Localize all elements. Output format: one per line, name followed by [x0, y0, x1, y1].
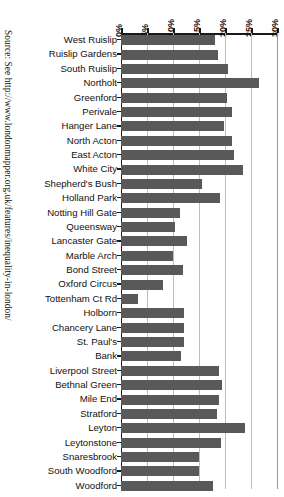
bar — [121, 236, 187, 246]
bar — [121, 93, 227, 103]
bar — [121, 323, 184, 333]
category-label: Leyton — [0, 421, 117, 435]
bar-row — [121, 76, 277, 90]
category-label: Holborn — [0, 306, 117, 320]
bar — [121, 337, 184, 347]
bar — [121, 265, 183, 275]
bar — [121, 466, 199, 476]
bar — [121, 395, 219, 405]
bar-row — [121, 306, 277, 320]
bar-row — [121, 91, 277, 105]
bar-row — [121, 378, 277, 392]
bar-row — [121, 177, 277, 191]
bar-row — [121, 234, 277, 248]
bar — [121, 50, 218, 60]
bar-row — [121, 162, 277, 176]
category-label: Shepherd's Bush — [0, 177, 117, 191]
category-label: Ruislip Gardens — [0, 47, 117, 61]
category-label: Stratford — [0, 407, 117, 421]
category-label: Hanger Lane — [0, 119, 117, 133]
category-label: Notting Hill Gate — [0, 206, 117, 220]
category-label: Liverpool Street — [0, 364, 117, 378]
bar-row — [121, 105, 277, 119]
category-label: Oxford Circus — [0, 277, 117, 291]
category-label: South Woodford — [0, 464, 117, 478]
bar — [121, 35, 215, 45]
bar-row — [121, 321, 277, 335]
bar-row — [121, 47, 277, 61]
category-label: Holland Park — [0, 191, 117, 205]
bar-row — [121, 349, 277, 363]
bar-row — [121, 220, 277, 234]
bar-row — [121, 421, 277, 435]
bar-row — [121, 277, 277, 291]
bar-row — [121, 479, 277, 493]
bar-row — [121, 148, 277, 162]
bar — [121, 366, 219, 376]
bar-row — [121, 134, 277, 148]
category-label: East Acton — [0, 148, 117, 162]
bar-row — [121, 364, 277, 378]
bar — [121, 78, 259, 88]
bar-row — [121, 33, 277, 47]
plot-area — [121, 33, 277, 493]
category-label: Lancaster Gate — [0, 234, 117, 248]
bar-row — [121, 407, 277, 421]
bar — [121, 423, 245, 433]
category-label: Bank — [0, 349, 117, 363]
category-label: White City — [0, 162, 117, 176]
bar — [121, 121, 224, 131]
bar — [121, 351, 181, 361]
category-label: Queensway — [0, 220, 117, 234]
bar — [121, 222, 175, 232]
category-label: Bond Street — [0, 263, 117, 277]
bar — [121, 308, 184, 318]
bar — [121, 481, 213, 491]
bar — [121, 294, 138, 304]
bar-row — [121, 464, 277, 478]
chart-root: Source: See http://www.londonmapper.org.… — [0, 0, 284, 497]
bar — [121, 452, 199, 462]
bar-row — [121, 392, 277, 406]
bar-row — [121, 249, 277, 263]
bar-row — [121, 263, 277, 277]
category-labels: West RuislipRuislip GardensSouth Ruislip… — [0, 33, 117, 493]
category-label: Northolt — [0, 76, 117, 90]
bar — [121, 136, 232, 146]
category-label: South Ruislip — [0, 62, 117, 76]
bar-row — [121, 335, 277, 349]
bar — [121, 280, 163, 290]
bar — [121, 409, 217, 419]
bar — [121, 208, 180, 218]
bar — [121, 150, 234, 160]
bar — [121, 438, 221, 448]
category-label: West Ruislip — [0, 33, 117, 47]
bar — [121, 107, 232, 117]
bar — [121, 380, 222, 390]
gridline-30pct — [277, 33, 278, 489]
bar-row — [121, 119, 277, 133]
category-label: Snaresbrook — [0, 450, 117, 464]
bar — [121, 193, 220, 203]
category-label: Greenford — [0, 91, 117, 105]
bar-row — [121, 206, 277, 220]
bar — [121, 179, 202, 189]
category-label: North Acton — [0, 134, 117, 148]
category-label: Bethnal Green — [0, 378, 117, 392]
bar — [121, 165, 243, 175]
category-label: St. Paul's — [0, 335, 117, 349]
bar-row — [121, 436, 277, 450]
category-label: Tottenham Ct Rd — [0, 292, 117, 306]
bar-row — [121, 292, 277, 306]
category-label: Woodford — [0, 479, 117, 493]
category-label: Perivale — [0, 105, 117, 119]
bar — [121, 251, 173, 261]
category-label: Marble Arch — [0, 249, 117, 263]
bar-row — [121, 191, 277, 205]
bar — [121, 64, 228, 74]
bar-row — [121, 62, 277, 76]
category-label: Leytonstone — [0, 436, 117, 450]
category-label: Mile End — [0, 392, 117, 406]
bar-row — [121, 450, 277, 464]
category-label: Chancery Lane — [0, 321, 117, 335]
